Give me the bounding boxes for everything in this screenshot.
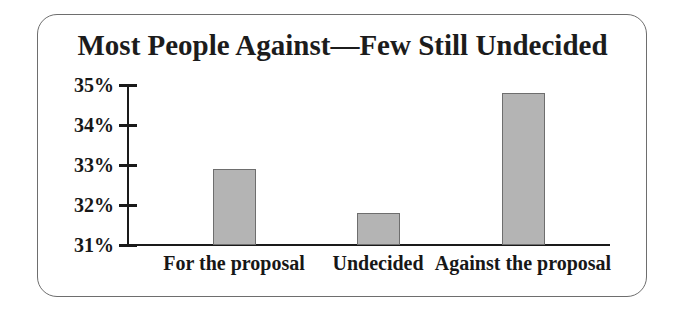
bar — [213, 169, 256, 245]
y-tick-label: 31% — [54, 235, 114, 255]
y-tick-mark — [119, 204, 137, 207]
bar — [502, 93, 545, 245]
y-tick-mark — [119, 244, 137, 247]
y-tick-label: 35% — [54, 75, 114, 95]
y-tick-label: 33% — [54, 155, 114, 175]
y-tick-mark — [119, 164, 137, 167]
page: Most People Against—Few Still Undecided … — [0, 0, 685, 309]
chart-title: Most People Against—Few Still Undecided — [37, 29, 648, 62]
x-category-label: Against the proposal — [403, 253, 643, 273]
y-tick-label: 32% — [54, 195, 114, 215]
bar — [357, 213, 400, 245]
y-tick-label: 34% — [54, 115, 114, 135]
y-tick-mark — [119, 124, 137, 127]
y-tick-mark — [119, 84, 137, 87]
